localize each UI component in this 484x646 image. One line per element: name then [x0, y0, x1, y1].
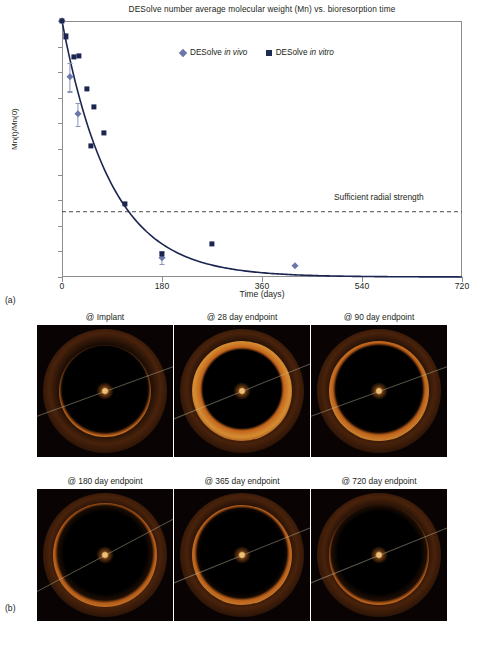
error-bar-cap: [67, 63, 72, 64]
data-point-in-vitro: [209, 241, 214, 246]
panel-b-caption: (b): [5, 603, 16, 613]
oct-cross-section-image: [311, 325, 447, 457]
oct-cross-section-image: [174, 489, 310, 621]
oct-image-cell: @ 180 day endpoint: [37, 476, 173, 621]
data-point-in-vitro: [122, 201, 127, 206]
oct-image-cell: @ 365 day endpoint: [174, 476, 310, 621]
panel-b-oct-images: @ Implant@ 28 day endpoint@ 90 day endpo…: [0, 310, 484, 646]
panel-a-chart: DESolve number average molecular weight …: [0, 0, 484, 310]
x-tick-label: 720: [455, 281, 469, 291]
data-point-in-vitro: [63, 34, 68, 39]
x-tick-mark: [62, 277, 63, 282]
x-tick-label: 180: [155, 281, 169, 291]
data-point-in-vitro: [59, 18, 64, 23]
fit-curve: [62, 21, 462, 277]
oct-image-cell: @ 28 day endpoint: [174, 312, 310, 457]
x-tick-label: 0: [60, 281, 65, 291]
oct-cross-section-image: [174, 325, 310, 457]
data-point-in-vitro: [88, 143, 93, 148]
data-point-in-vitro: [159, 251, 164, 256]
x-tick-label: 360: [255, 281, 269, 291]
oct-image-cell: @ 720 day endpoint: [311, 476, 447, 621]
x-tick-mark: [262, 277, 263, 282]
panel-a-caption: (a): [5, 295, 16, 305]
oct-cross-section-image: [311, 489, 447, 621]
data-point-in-vitro: [71, 54, 76, 59]
oct-image-caption: @ 365 day endpoint: [174, 476, 310, 486]
oct-image-caption: @ 90 day endpoint: [311, 312, 447, 322]
plot-area: 0%10%20%30%40%50%60%70%80%90%100%0180360…: [62, 21, 462, 277]
y-axis-label: Mn(t)/Mn(0): [10, 108, 19, 150]
data-point-in-vitro: [101, 130, 106, 135]
oct-image-caption: @ 180 day endpoint: [37, 476, 173, 486]
data-point-in-vitro: [77, 53, 82, 58]
x-tick-label: 540: [355, 281, 369, 291]
data-point-in-vitro: [84, 86, 89, 91]
oct-image-caption: @ 28 day endpoint: [174, 312, 310, 322]
oct-image-caption: @ 720 day endpoint: [311, 476, 447, 486]
error-bar-cap: [75, 126, 80, 127]
error-bar-cap: [160, 264, 165, 265]
error-bar-cap: [75, 103, 80, 104]
chart-title: DESolve number average molecular weight …: [62, 4, 462, 14]
data-point-in-vitro: [92, 104, 97, 109]
x-tick-mark: [362, 277, 363, 282]
oct-image-cell: @ Implant: [37, 312, 173, 457]
plot-svg: [62, 21, 462, 277]
oct-image-caption: @ Implant: [37, 312, 173, 322]
x-tick-mark: [162, 277, 163, 282]
oct-cross-section-image: [37, 489, 173, 621]
error-bar-cap: [67, 91, 72, 92]
oct-cross-section-image: [37, 325, 173, 457]
oct-image-cell: @ 90 day endpoint: [311, 312, 447, 457]
x-tick-mark: [462, 277, 463, 282]
